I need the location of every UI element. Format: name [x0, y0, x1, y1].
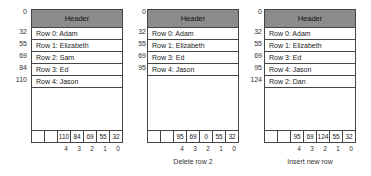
- caption-insert-row: Insert new row: [264, 158, 356, 165]
- table-row: Row 0: Adam: [265, 28, 355, 40]
- table-row: Row 4: Jason: [32, 76, 122, 88]
- table-row: Row 2: Sam: [32, 52, 122, 64]
- row-offset: 95: [122, 64, 146, 71]
- slot: [45, 131, 58, 142]
- slot: 32: [343, 131, 355, 142]
- row-offset: 124: [238, 76, 262, 83]
- page-header: Header: [148, 10, 238, 28]
- table-row: Row 3: Ed: [148, 52, 238, 64]
- slot-array: 110 84 69 55 32: [32, 130, 122, 142]
- slot: 84: [71, 131, 84, 142]
- data-page: Header Row 0: Adam Row 1: Elizabeth Row …: [147, 9, 239, 143]
- slot: 110: [58, 131, 71, 142]
- caption-delete-row: Delete row 2: [147, 158, 239, 165]
- slot-index: 0: [228, 145, 240, 152]
- slot: [32, 131, 45, 142]
- slot: 55: [213, 131, 226, 142]
- slot-index: 3: [306, 145, 318, 152]
- header-offset: 0: [3, 8, 27, 15]
- slot: 55: [330, 131, 343, 142]
- page-header: Header: [265, 10, 355, 28]
- slot-array: 95 69 0 55 32: [148, 130, 238, 142]
- table-row: Row 1: Elizabeth: [265, 40, 355, 52]
- slot-index: 1: [99, 145, 111, 152]
- slot-index: 2: [319, 145, 331, 152]
- table-row: Row 3: Ed: [32, 64, 122, 76]
- slot: 69: [304, 131, 317, 142]
- slot-index: 1: [215, 145, 227, 152]
- row-offset: 110: [3, 76, 27, 83]
- slot: [265, 131, 278, 142]
- slot-index: 3: [189, 145, 201, 152]
- slot-index: 3: [73, 145, 85, 152]
- slot-index: 4: [293, 145, 305, 152]
- slot: 95: [174, 131, 187, 142]
- slot: 69: [84, 131, 97, 142]
- slot-index: 1: [332, 145, 344, 152]
- slot: [148, 131, 161, 142]
- header-offset: 0: [122, 8, 146, 15]
- row-offset: 32: [238, 28, 262, 35]
- slot: 55: [97, 131, 110, 142]
- data-page: Header Row 0: Adam Row 1: Elizabeth Row …: [31, 9, 123, 143]
- slot: 69: [187, 131, 200, 142]
- slot-array: 95 69 124 55 32: [265, 130, 355, 142]
- slot: 32: [226, 131, 238, 142]
- slot-index: 4: [176, 145, 188, 152]
- table-row: Row 1: Elizabeth: [148, 40, 238, 52]
- row-offset: 84: [3, 64, 27, 71]
- slot-index: 4: [60, 145, 72, 152]
- slot: [278, 131, 291, 142]
- slot-index: 0: [345, 145, 357, 152]
- slot: [161, 131, 174, 142]
- slot-index: 2: [86, 145, 98, 152]
- row-offset: 32: [122, 28, 146, 35]
- table-row: Row 4: Jason: [148, 64, 238, 76]
- row-offset: 55: [122, 40, 146, 47]
- table-row: Row 0: Adam: [32, 28, 122, 40]
- slot-index: 0: [112, 145, 124, 152]
- data-page: Header Row 0: Adam Row 1: Elizabeth Row …: [264, 9, 356, 143]
- row-offset: 69: [3, 52, 27, 59]
- row-offset: 55: [238, 40, 262, 47]
- row-offset: 95: [238, 64, 262, 71]
- table-row: Row 4: Jason: [265, 64, 355, 76]
- slot: 95: [291, 131, 304, 142]
- row-offset: 32: [3, 28, 27, 35]
- row-offset: 69: [122, 52, 146, 59]
- table-row: Row 3: Ed: [265, 52, 355, 64]
- slot-index: 2: [202, 145, 214, 152]
- row-offset: 55: [3, 40, 27, 47]
- table-row: Row 1: Elizabeth: [32, 40, 122, 52]
- table-row: Row 2: Dan: [265, 76, 355, 88]
- page-header: Header: [32, 10, 122, 28]
- header-offset: 0: [238, 8, 262, 15]
- slot: 32: [110, 131, 122, 142]
- row-offset: 69: [238, 52, 262, 59]
- slot: 0: [200, 131, 213, 142]
- table-row: Row 0: Adam: [148, 28, 238, 40]
- slot: 124: [317, 131, 330, 142]
